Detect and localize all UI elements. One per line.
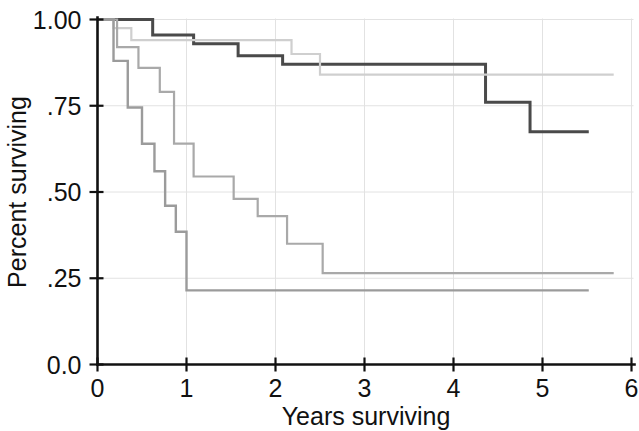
survival-chart: 01234560.0.25.50.751.00 Years surviving … xyxy=(0,0,639,431)
y-tick-label: .50 xyxy=(47,178,82,206)
gridlines-group xyxy=(98,19,634,365)
y-tick-label: .75 xyxy=(47,92,82,120)
x-tick-label: 6 xyxy=(625,374,639,402)
chart-canvas: 01234560.0.25.50.751.00 Years surviving … xyxy=(0,0,639,431)
x-axis-title: Years surviving xyxy=(282,402,451,430)
km-curve-curve-2-light-plateau xyxy=(98,20,614,75)
x-tick-label: 1 xyxy=(180,374,194,402)
x-tick-label: 4 xyxy=(447,374,461,402)
x-tick-label: 3 xyxy=(358,374,372,402)
x-tick-label: 5 xyxy=(536,374,550,402)
y-tick-label: 0.0 xyxy=(47,351,82,379)
y-tick-label: 1.00 xyxy=(33,6,82,34)
curves-group xyxy=(98,20,614,291)
axes-group xyxy=(98,18,635,365)
x-tick-label: 0 xyxy=(91,374,105,402)
ticks-group xyxy=(90,20,632,372)
y-axis-title: Percent surviving xyxy=(3,96,31,288)
km-curve-curve-4-steepest-decline xyxy=(98,20,589,291)
y-tick-label: .25 xyxy=(47,264,82,292)
x-tick-label: 2 xyxy=(269,374,283,402)
km-curve-curve-3-mid-gray-decline xyxy=(98,20,614,274)
